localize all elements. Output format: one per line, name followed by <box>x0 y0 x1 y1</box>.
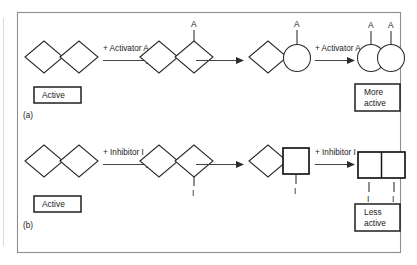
panel-a-arrow-2-head <box>236 57 244 64</box>
panel-b-start-state-tag: Active <box>34 196 81 212</box>
panel-a-end-state-label-line1: More <box>364 87 383 97</box>
panel-b-step-2-enzyme: I <box>140 145 213 198</box>
panel-a-step-3-enzyme: A <box>249 19 311 73</box>
panel-b-arrow-3-label: + Inhibitor I <box>315 148 356 157</box>
ligand-label-i: I <box>294 186 296 196</box>
panel-b-end-state-tag: Less active <box>355 204 400 231</box>
ligand-label-i-left: I <box>367 194 369 204</box>
panel-b-end-state-label-line1: Less <box>364 207 382 217</box>
panel-a-arrow-3-head <box>347 57 355 64</box>
panel-a-start-state-tag: Active <box>34 87 81 103</box>
panel-b-caption: (b) <box>23 221 33 230</box>
panel-b-step-4-enzyme: I I <box>358 152 405 204</box>
panel-a-caption: (a) <box>23 111 33 120</box>
panel-b-step-1-enzyme <box>25 145 98 177</box>
subunit-diamond-left <box>249 41 287 73</box>
panel-a-step-2-enzyme: A <box>140 19 213 73</box>
panel-a-arrow-1-label: + Activator A <box>103 44 149 53</box>
panel-a-end-state-label-line2: active <box>364 98 386 108</box>
panel-b-step-3-enzyme: I <box>249 145 309 196</box>
panel-a-activation: + Activator A A A <box>23 19 405 120</box>
subunit-diamond-right <box>175 41 213 73</box>
panel-b-arrow-2-head <box>236 161 244 168</box>
panel-a-end-state-tag: More active <box>355 84 400 111</box>
panel-b-start-state-label: Active <box>42 199 65 209</box>
subunit-diamond-right <box>175 145 213 177</box>
ligand-label-i: I <box>192 188 194 198</box>
panel-a-arrow-3-label: + Activator A <box>315 44 361 53</box>
panel-a-step-1-enzyme <box>25 41 98 73</box>
subunit-circle-right <box>284 45 311 72</box>
subunit-diamond-right <box>60 145 98 177</box>
ligand-label-a: A <box>294 19 300 29</box>
panel-b-arrow-1-label: + Inhibitor I <box>103 148 144 157</box>
figure-root: + Activator A A A <box>0 0 417 265</box>
panel-b-arrow-3-head <box>347 161 355 168</box>
subunit-diamond-right <box>60 41 98 73</box>
panel-b-arrow-3: + Inhibitor I <box>315 148 356 168</box>
panel-b-inhibition: + Inhibitor I I I <box>23 145 405 231</box>
subunit-square-right <box>283 148 309 174</box>
panel-a-start-state-label: Active <box>42 90 65 100</box>
ligand-label-a: A <box>191 19 197 29</box>
subunit-diamond-left <box>25 41 63 73</box>
ligand-label-a-left: A <box>368 20 374 30</box>
allosteric-regulation-diagram: + Activator A A A <box>0 0 417 265</box>
ligand-label-i-right: I <box>392 194 394 204</box>
subunit-diamond-left <box>249 145 287 177</box>
subunit-diamond-left <box>140 145 178 177</box>
subunit-diamond-left <box>25 145 63 177</box>
subunit-circle-right <box>378 45 405 72</box>
panel-a-arrow-3: + Activator A <box>315 44 361 64</box>
panel-a-step-4-enzyme: A A <box>358 20 405 72</box>
panel-b-end-state-label-line2: active <box>364 218 386 228</box>
ligand-label-a-right: A <box>388 20 394 30</box>
